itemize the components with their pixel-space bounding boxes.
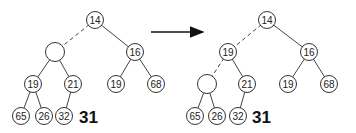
heap-node: 19	[25, 76, 42, 93]
heap-node: 68	[148, 76, 165, 93]
svg-text:26: 26	[211, 111, 223, 122]
svg-text:19: 19	[110, 79, 122, 90]
heap-node: 16	[301, 44, 318, 61]
heap-node: 65	[187, 108, 204, 125]
svg-text:21: 21	[67, 79, 79, 90]
hole-node	[46, 43, 65, 62]
svg-text:65: 65	[15, 111, 27, 122]
heap-node: 19	[220, 44, 237, 61]
heap-node: 19	[280, 76, 297, 93]
svg-text:14: 14	[89, 15, 101, 26]
heap-node: 68	[321, 76, 338, 93]
hole-node	[198, 75, 217, 94]
heap-node: 32	[230, 108, 247, 125]
heap-node: 21	[65, 76, 82, 93]
heap-node: 14	[87, 12, 104, 29]
svg-text:19: 19	[222, 47, 234, 58]
after-tree: 14 19 16 21 19 68 65 26 32 31	[187, 12, 338, 127]
heap-node: 32	[56, 108, 73, 125]
before-tree: 14 16 19 21 19 68 65 26 32 31	[13, 12, 165, 127]
pending-value: 31	[252, 108, 271, 127]
svg-text:26: 26	[38, 111, 50, 122]
heap-node: 21	[239, 76, 256, 93]
svg-text:68: 68	[150, 79, 162, 90]
heap-node: 65	[13, 108, 30, 125]
heap-node: 26	[36, 108, 53, 125]
heap-node: 14	[259, 12, 276, 29]
svg-text:32: 32	[58, 111, 70, 122]
svg-text:32: 32	[232, 111, 244, 122]
heap-node: 16	[127, 44, 144, 61]
svg-text:16: 16	[129, 47, 141, 58]
svg-text:14: 14	[261, 15, 273, 26]
heap-diagram: 14 16 19 21 19 68 65 26 32 31 14 19 16 2…	[0, 0, 356, 133]
svg-text:19: 19	[27, 79, 39, 90]
svg-text:16: 16	[303, 47, 315, 58]
svg-text:68: 68	[323, 79, 335, 90]
heap-node: 19	[108, 76, 125, 93]
heap-node: 26	[209, 108, 226, 125]
svg-text:21: 21	[241, 79, 253, 90]
svg-text:65: 65	[189, 111, 201, 122]
svg-text:19: 19	[282, 79, 294, 90]
pending-value: 31	[79, 108, 98, 127]
